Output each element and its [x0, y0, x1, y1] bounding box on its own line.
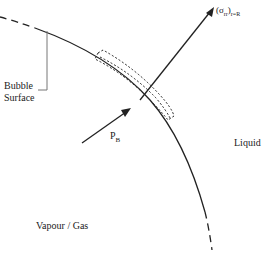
- bubble-surface-dashed-bottom: [205, 212, 212, 250]
- bubble-surface-label-line1: Bubble: [4, 80, 35, 92]
- bubble-surface-label: Bubble Surface: [4, 80, 35, 104]
- vapour-label: Vapour / Gas: [36, 220, 88, 232]
- stress-arrow-line: [140, 12, 210, 100]
- liquid-label: Liquid: [234, 137, 261, 149]
- stress-eval-subscript: r=R: [231, 11, 240, 17]
- bubble-surface-label-line2: Surface: [4, 92, 35, 104]
- diagram-canvas: [0, 0, 265, 257]
- stress-label: (σrr)r=R: [216, 4, 240, 20]
- stress-symbol: (σ: [216, 5, 224, 15]
- pressure-subscript: B: [116, 136, 121, 144]
- bubble-surface-leader: [38, 31, 47, 90]
- bubble-surface-arc: [35, 28, 205, 212]
- pressure-arrow-head: [121, 108, 131, 117]
- bubble-surface-dashed-top: [0, 17, 35, 28]
- pressure-label: PB: [110, 130, 120, 146]
